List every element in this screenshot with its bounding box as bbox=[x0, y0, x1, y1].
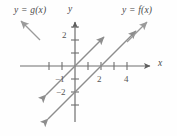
g-label-pointer-icon bbox=[21, 21, 40, 40]
f-label-pointer-icon bbox=[127, 22, 147, 42]
label-function-f: y = f(x) bbox=[122, 5, 152, 15]
tick-label-x-four: 4 bbox=[124, 74, 129, 84]
tick-label-x-neg-one: −1 bbox=[55, 74, 65, 84]
label-y-axis: y bbox=[68, 4, 72, 14]
graph-figure: y = g(x) y = f(x) y x 2 −1 −2 2 4 bbox=[0, 0, 177, 136]
tick-label-y-neg-two: −2 bbox=[56, 87, 66, 97]
coordinate-plane-svg bbox=[0, 0, 177, 136]
tick-label-x-two: 2 bbox=[97, 74, 102, 84]
label-function-g: y = g(x) bbox=[14, 5, 46, 15]
label-x-axis: x bbox=[158, 58, 162, 68]
tick-label-y-two: 2 bbox=[62, 30, 67, 40]
